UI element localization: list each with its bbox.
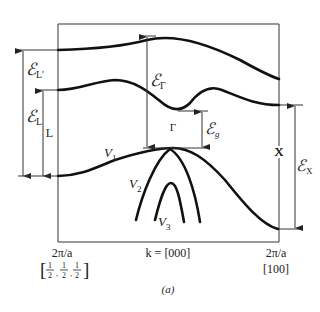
svg-text:,: ,	[70, 269, 72, 278]
svg-text:,: ,	[56, 269, 58, 278]
e-gamma-label: ℰΓ	[150, 71, 166, 91]
svg-text:1: 1	[62, 261, 66, 270]
right-axis-label: 2π/a	[266, 246, 287, 260]
v1-label: V1	[104, 145, 116, 163]
v3-label: V3	[158, 214, 171, 232]
left-axis-label: 2π/a	[52, 246, 73, 260]
lowest-conduction-band	[58, 80, 279, 109]
v2-label: V2	[129, 176, 141, 194]
gamma-point-label: Γ	[170, 121, 176, 133]
svg-text:1: 1	[75, 261, 79, 270]
svg-text:2: 2	[75, 271, 79, 280]
svg-text:1: 1	[48, 261, 52, 270]
left-axis-coordinates: [ ] 1 2 , 1 2 , 1 2	[40, 259, 89, 280]
l-point-label: L	[46, 126, 53, 140]
center-axis-label: k = [000]	[146, 246, 191, 260]
upper-conduction-band	[58, 38, 279, 79]
e-g-label: ℰg	[205, 120, 220, 139]
e-lprime-label: ℰL'	[26, 60, 44, 80]
valence-band-v1	[58, 148, 278, 229]
plot-frame	[58, 24, 279, 242]
e-l-label: ℰL	[26, 107, 42, 127]
svg-text:2: 2	[62, 271, 66, 280]
svg-text:2: 2	[48, 271, 52, 280]
x-point-label-text: X	[274, 144, 284, 159]
band-structure-diagram: ℰL' ℰL L ℰΓ Γ ℰg X X ℰX V1 V2 V3 2π/a [ …	[0, 0, 320, 312]
figure-caption: (a)	[162, 283, 175, 296]
svg-text:]: ]	[83, 259, 89, 280]
svg-text:[: [	[40, 259, 46, 280]
right-axis-coordinates: [100]	[263, 262, 289, 276]
e-x-label: ℰX	[296, 157, 313, 176]
